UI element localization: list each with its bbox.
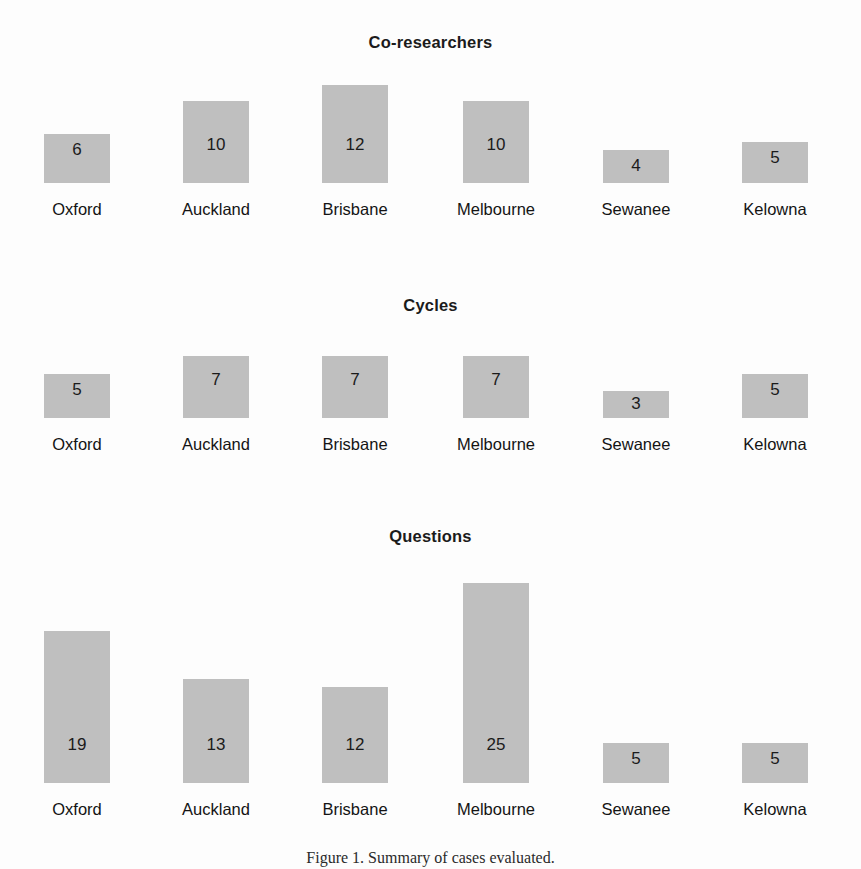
bar[interactable] <box>183 679 249 783</box>
chart-title: Questions <box>0 527 861 546</box>
bar-slot: 7 <box>183 340 249 418</box>
bar-value-label: 6 <box>44 141 110 158</box>
category-label: Brisbane <box>285 200 425 219</box>
bar-slot: 5 <box>742 340 808 418</box>
plot-area: 577735 <box>0 340 861 418</box>
chart-title: Co-researchers <box>0 33 861 52</box>
bar-slot: 12 <box>322 70 388 183</box>
category-label: Kelowna <box>705 435 845 454</box>
category-label: Brisbane <box>285 435 425 454</box>
bar-slot: 6 <box>44 70 110 183</box>
bar-value-label: 7 <box>183 371 249 388</box>
bar-slot: 4 <box>603 70 669 183</box>
bar-value-label: 3 <box>603 395 669 412</box>
figure-container: Co-researchers610121045OxfordAucklandBri… <box>0 0 861 869</box>
bar-value-label: 7 <box>463 371 529 388</box>
bar-slot: 5 <box>44 340 110 418</box>
category-label: Brisbane <box>285 800 425 819</box>
bar-slot: 13 <box>183 578 249 783</box>
bar-value-label: 5 <box>603 750 669 767</box>
category-label: Auckland <box>146 200 286 219</box>
bar-value-label: 5 <box>742 149 808 166</box>
bar-value-label: 19 <box>44 736 110 753</box>
bar-value-label: 5 <box>742 381 808 398</box>
category-label: Auckland <box>146 435 286 454</box>
category-label: Melbourne <box>426 800 566 819</box>
category-label: Melbourne <box>426 435 566 454</box>
bar-value-label: 13 <box>183 736 249 753</box>
category-label: Auckland <box>146 800 286 819</box>
bar-slot: 5 <box>603 578 669 783</box>
category-label: Melbourne <box>426 200 566 219</box>
bar-value-label: 12 <box>322 136 388 153</box>
category-label: Kelowna <box>705 200 845 219</box>
bar-slot: 25 <box>463 578 529 783</box>
category-label: Oxford <box>7 800 147 819</box>
bar-value-label: 10 <box>463 136 529 153</box>
bar-slot: 10 <box>183 70 249 183</box>
bar-slot: 10 <box>463 70 529 183</box>
bar-value-label: 7 <box>322 371 388 388</box>
category-label: Sewanee <box>566 200 706 219</box>
category-label: Sewanee <box>566 800 706 819</box>
category-label: Oxford <box>7 435 147 454</box>
bar-slot: 12 <box>322 578 388 783</box>
plot-area: 1913122555 <box>0 578 861 783</box>
bar-slot: 3 <box>603 340 669 418</box>
bar-value-label: 25 <box>463 736 529 753</box>
bar-slot: 19 <box>44 578 110 783</box>
bar[interactable] <box>322 85 388 183</box>
bar-slot: 7 <box>322 340 388 418</box>
bar-value-label: 5 <box>44 381 110 398</box>
figure-caption: Figure 1. Summary of cases evaluated. <box>0 849 861 867</box>
category-label: Sewanee <box>566 435 706 454</box>
bar-value-label: 10 <box>183 136 249 153</box>
bar-value-label: 5 <box>742 750 808 767</box>
chart-title: Cycles <box>0 296 861 315</box>
bar-slot: 5 <box>742 578 808 783</box>
bar[interactable] <box>44 631 110 783</box>
category-label: Kelowna <box>705 800 845 819</box>
plot-area: 610121045 <box>0 70 861 183</box>
bar-slot: 5 <box>742 70 808 183</box>
bar-value-label: 12 <box>322 736 388 753</box>
category-label: Oxford <box>7 200 147 219</box>
bar-slot: 7 <box>463 340 529 418</box>
bar-value-label: 4 <box>603 157 669 174</box>
